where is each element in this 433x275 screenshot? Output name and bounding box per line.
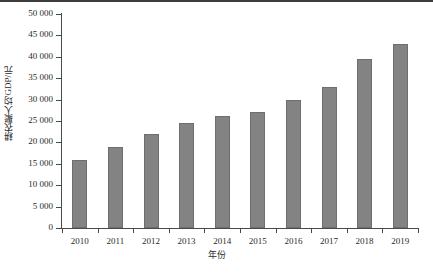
- y-axis-tick-label-text: 40 000: [1, 52, 53, 61]
- x-axis-tick-label: 2015: [240, 236, 276, 246]
- bar: [322, 87, 337, 228]
- x-axis-tick: [311, 229, 312, 233]
- bar: [250, 112, 265, 228]
- plot-area: [62, 14, 418, 228]
- y-axis-tick-label-text: 50 000: [1, 9, 53, 18]
- y-axis-tick-label: 45 000: [0, 30, 53, 39]
- y-axis-tick-label-text: 0: [1, 223, 53, 232]
- x-axis-tick-label: 2019: [382, 236, 418, 246]
- x-axis-tick: [240, 229, 241, 233]
- x-axis-title: 年份: [0, 250, 433, 260]
- bar: [357, 59, 372, 228]
- x-axis-tick: [169, 229, 170, 233]
- y-axis-title: 耕农聚人均GDP/元: [2, 66, 16, 141]
- bar: [393, 44, 408, 228]
- x-axis-tick: [204, 229, 205, 233]
- bar: [215, 116, 230, 228]
- y-axis-tick-label-text: 5 000: [1, 202, 53, 211]
- bar: [72, 160, 87, 228]
- bar-chart-figure: 05 00010 00015 00020 00025 00030 00035 0…: [0, 0, 433, 275]
- bar: [144, 134, 159, 228]
- x-axis-tick-label: 2016: [276, 236, 312, 246]
- bar: [286, 100, 301, 228]
- x-axis-tick: [276, 229, 277, 233]
- y-axis-tick-label: 50 000: [0, 9, 53, 18]
- y-axis-tick-label: 15 000: [0, 159, 53, 168]
- y-axis-tick-label: 5 000: [0, 202, 53, 211]
- x-axis-tick: [133, 229, 134, 233]
- bar: [179, 123, 194, 228]
- x-axis-tick: [62, 229, 63, 233]
- bar: [108, 147, 123, 228]
- x-axis-tick-label: 2014: [204, 236, 240, 246]
- x-axis-tick-label: 2017: [311, 236, 347, 246]
- y-axis-tick-label-text: 15 000: [1, 159, 53, 168]
- x-axis-tick-label: 2018: [347, 236, 383, 246]
- x-axis-tick: [98, 229, 99, 233]
- y-axis-tick-label-text: 10 000: [1, 180, 53, 189]
- x-axis-tick: [347, 229, 348, 233]
- y-axis-tick-label-text: 45 000: [1, 30, 53, 39]
- x-axis-tick-label: 2013: [169, 236, 205, 246]
- y-axis-tick-label: 40 000: [0, 52, 53, 61]
- y-axis-tick-label: 0: [0, 223, 53, 232]
- x-axis-tick-label: 2011: [98, 236, 134, 246]
- x-axis-tick-label: 2010: [62, 236, 98, 246]
- x-axis-tick: [418, 229, 419, 233]
- x-axis-tick: [382, 229, 383, 233]
- y-axis-tick-label: 10 000: [0, 180, 53, 189]
- x-axis-tick-label: 2012: [133, 236, 169, 246]
